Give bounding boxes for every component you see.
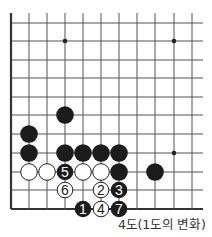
black-stone xyxy=(146,163,164,181)
star-point-icon xyxy=(172,39,177,44)
go-board-diagram: 5623147 xyxy=(0,0,212,237)
move-number-label: 3 xyxy=(115,182,123,198)
move-number-label: 4 xyxy=(97,201,105,217)
black-stone-move-5: 5 xyxy=(57,164,74,181)
move-number-label: 2 xyxy=(97,182,105,198)
move-number-label: 6 xyxy=(61,182,69,198)
black-stone xyxy=(92,144,110,162)
white-stone-move-4: 4 xyxy=(93,201,109,217)
diagram-caption: 4도(1도의 변화) xyxy=(118,214,206,233)
move-number-label: 1 xyxy=(79,201,87,217)
black-stone xyxy=(74,144,92,162)
white-stone xyxy=(75,164,92,181)
black-stone xyxy=(20,144,38,162)
white-stone-move-2: 2 xyxy=(93,182,109,198)
black-stone-move-1: 1 xyxy=(75,201,92,218)
move-number-label: 5 xyxy=(61,164,69,180)
stones-layer: 5623147 xyxy=(20,106,164,217)
white-stone xyxy=(39,164,56,181)
black-stone xyxy=(56,106,74,124)
black-stone xyxy=(56,144,74,162)
black-stone-move-3: 3 xyxy=(111,182,128,199)
black-stone xyxy=(110,144,128,162)
star-point-icon xyxy=(172,151,177,156)
white-stone xyxy=(93,164,110,181)
black-stone xyxy=(110,163,128,181)
white-stone xyxy=(21,164,38,181)
black-stone xyxy=(20,125,38,143)
star-point-icon xyxy=(63,39,68,44)
white-stone-move-6: 6 xyxy=(57,182,73,198)
